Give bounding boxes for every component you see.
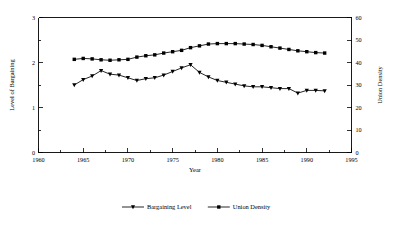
data-point: [260, 44, 263, 47]
chart-figure: 1960196519701975198019851990199501230102…: [0, 0, 415, 230]
data-point: [216, 42, 219, 45]
data-point: [180, 49, 183, 52]
x-axis-title: Year: [189, 166, 202, 173]
data-point: [314, 51, 317, 54]
data-point: [108, 59, 111, 62]
series-line: [74, 65, 324, 93]
data-point: [135, 79, 139, 83]
data-point: [287, 48, 290, 51]
axes-layer: [39, 18, 352, 153]
data-point: [189, 46, 192, 49]
y-tick-label: 1: [32, 104, 35, 111]
dual-axis-line-chart: 1960196519701975198019851990199501230102…: [0, 0, 415, 230]
legend-item-0[interactable]: Bargaining Level: [122, 203, 192, 210]
y-tick-label: 2: [32, 59, 35, 66]
data-point: [305, 50, 308, 53]
data-point: [99, 58, 102, 61]
data-point: [144, 54, 147, 57]
data-point: [198, 44, 201, 47]
data-point: [153, 53, 156, 56]
data-point: [323, 51, 326, 54]
series-layer: [72, 42, 327, 96]
y2-tick-label: 10: [356, 126, 362, 133]
legend-marker: [217, 205, 220, 208]
data-point: [81, 78, 85, 82]
y2-tick-label: 20: [356, 104, 362, 111]
x-tick-label: 1960: [32, 156, 44, 163]
legend-label: Union Density: [233, 203, 271, 210]
data-point: [72, 83, 76, 87]
chart-legend: Bargaining LevelUnion Density: [122, 203, 271, 210]
data-point: [242, 42, 245, 45]
x-tick-label: 1975: [166, 156, 178, 163]
data-point: [251, 43, 254, 46]
axis-labels-layer: 1960196519701975198019851990199501230102…: [8, 14, 383, 173]
data-point: [269, 45, 272, 48]
data-point: [126, 58, 129, 61]
legend-item-1[interactable]: Union Density: [208, 203, 271, 210]
data-point: [171, 50, 174, 53]
y-tick-label: 3: [32, 14, 35, 21]
data-point: [207, 42, 210, 45]
data-point: [234, 42, 237, 45]
data-point: [162, 51, 165, 54]
data-point: [296, 49, 299, 52]
x-tick-label: 1995: [345, 156, 357, 163]
y2-tick-label: 30: [356, 81, 362, 88]
y2-tick-label: 40: [356, 59, 362, 66]
y-tick-label: 0: [32, 149, 35, 156]
legend-label: Bargaining Level: [147, 203, 192, 210]
y2-axis-title: Union Density: [376, 65, 383, 103]
data-point: [82, 57, 85, 60]
y-axis-title: Level of Bargaining: [8, 59, 15, 111]
x-tick-label: 1990: [301, 156, 313, 163]
series-union-density: [73, 42, 327, 62]
y2-tick-label: 60: [356, 14, 362, 21]
x-tick-label: 1980: [211, 156, 223, 163]
data-point: [225, 42, 228, 45]
data-point: [117, 58, 120, 61]
data-point: [135, 55, 138, 58]
series-bargaining-level: [72, 63, 327, 95]
y2-tick-label: 0: [356, 149, 359, 156]
x-tick-label: 1985: [256, 156, 268, 163]
x-tick-label: 1965: [77, 156, 89, 163]
data-point: [278, 46, 281, 49]
data-point: [90, 57, 93, 60]
x-tick-label: 1970: [122, 156, 134, 163]
y2-tick-label: 50: [356, 36, 362, 43]
data-point: [73, 58, 76, 61]
data-point: [296, 91, 300, 95]
